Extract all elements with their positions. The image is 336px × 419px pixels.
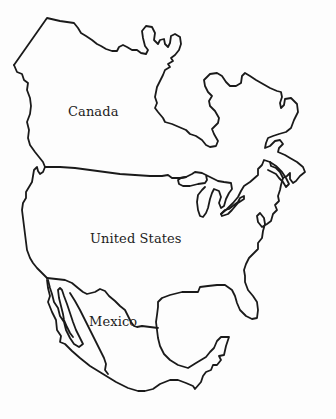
- us-east-coastline: [47, 178, 283, 391]
- label-mexico: Mexico: [89, 315, 137, 328]
- gulf-of-california-coast: [70, 293, 108, 374]
- label-canada: Canada: [68, 105, 119, 118]
- canada-north-coastline: [14, 18, 305, 214]
- map-outline-svg: [0, 0, 336, 419]
- west-coastline: [14, 65, 47, 278]
- north-america-map: Canada United States Mexico: [0, 0, 336, 419]
- label-united-states: United States: [90, 232, 182, 245]
- us-canada-border: [45, 167, 186, 178]
- great-lakes: [178, 172, 244, 217]
